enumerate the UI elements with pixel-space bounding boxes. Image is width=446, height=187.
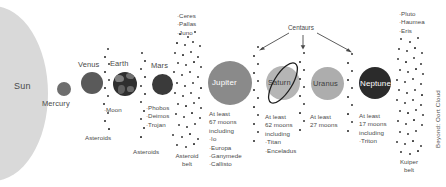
centaurs-arrows <box>261 33 350 51</box>
saturn-ring-icon <box>263 59 303 108</box>
centaurs-arrowheads <box>259 45 352 52</box>
diagram-overlay <box>0 0 446 187</box>
solar-system-diagram: Sun Mercury Venus Earth ·Moon Asteroids … <box>0 0 446 187</box>
